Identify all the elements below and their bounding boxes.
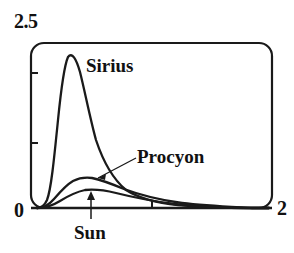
y-axis-min-label: 0 <box>14 200 24 220</box>
plot-frame <box>31 43 272 208</box>
x-axis-max-label: 2 <box>277 198 287 218</box>
curve-sirius <box>37 55 269 208</box>
y-axis-max-label: 2.5 <box>14 11 38 31</box>
curve-label-procyon: Procyon <box>137 147 204 166</box>
curve-label-sun: Sun <box>74 223 106 242</box>
curve-label-sirius: Sirius <box>86 56 134 75</box>
blackbody-spectrum-figure: 2.5 0 2 Sirius Procyon Sun <box>0 0 294 253</box>
sun-arrowhead <box>87 191 95 200</box>
plot-canvas <box>0 0 294 253</box>
